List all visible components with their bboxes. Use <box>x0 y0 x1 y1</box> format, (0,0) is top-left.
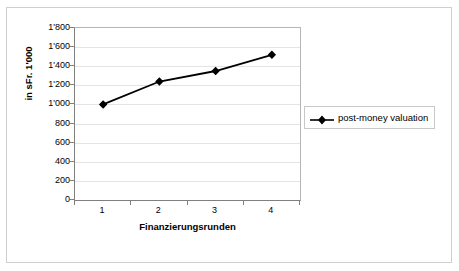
y-axis-tick-label: 1'000 <box>10 99 70 108</box>
x-axis-tick-mark <box>243 201 244 205</box>
chart-frame: in sFr. 1'000 02004006008001'0001'2001'4… <box>6 7 452 263</box>
x-axis-tick-mark <box>299 201 300 205</box>
x-axis-tick-mark <box>187 201 188 205</box>
line-marker-icon <box>309 112 335 124</box>
y-axis-tick-label: 800 <box>10 119 70 128</box>
y-axis-tick-label: 0 <box>10 195 70 204</box>
legend-item-label: post-money valuation <box>335 112 428 123</box>
x-axis-title: Finanzierungsrunden <box>74 221 301 232</box>
data-point-marker[interactable] <box>155 77 163 85</box>
data-series-layer <box>75 28 300 200</box>
x-axis-tick-mark <box>74 201 75 205</box>
y-axis-tick-label: 200 <box>10 176 70 185</box>
y-axis-tick-label: 1'200 <box>10 80 70 89</box>
x-axis-tick-label: 1 <box>82 205 122 215</box>
data-point-marker[interactable] <box>99 100 107 108</box>
y-axis-tick-label: 1'600 <box>10 42 70 51</box>
x-axis-tick-label: 4 <box>251 205 291 215</box>
y-axis-tick-label: 600 <box>10 138 70 147</box>
x-axis-tick-mark <box>130 201 131 205</box>
y-axis-tick-label: 1'800 <box>10 23 70 32</box>
x-axis-tick-labels: 1234 <box>74 205 301 219</box>
data-point-marker[interactable] <box>211 67 219 75</box>
y-axis-tick-label: 400 <box>10 157 70 166</box>
plot-area <box>74 27 301 201</box>
x-axis-tick-label: 2 <box>138 205 178 215</box>
series-line <box>103 55 272 105</box>
y-axis-tick-label: 1'400 <box>10 61 70 70</box>
data-point-marker[interactable] <box>268 51 276 59</box>
x-axis-tick-label: 3 <box>195 205 235 215</box>
legend-item-post-money-valuation[interactable]: post-money valuation <box>309 112 428 124</box>
y-axis-tick-labels: 02004006008001'0001'2001'4001'6001'800 <box>7 27 70 201</box>
chart-legend: post-money valuation <box>304 106 435 129</box>
